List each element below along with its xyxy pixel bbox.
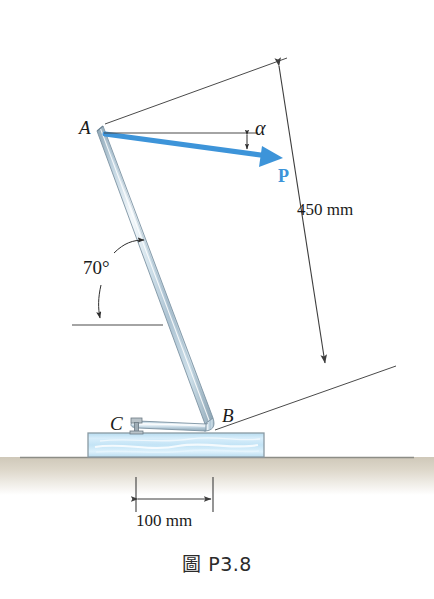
label-angle-alpha: α — [255, 118, 266, 138]
figure-container: A B C P α 70° 450 mm 100 mm 圖 P3.8 — [0, 0, 434, 599]
label-point-b: B — [222, 406, 234, 425]
label-point-c: C — [110, 414, 123, 433]
dimension-450 — [105, 58, 396, 430]
label-dimension-450: 450 mm — [297, 201, 353, 218]
ground — [0, 457, 434, 495]
figure-drawing — [0, 0, 434, 599]
base-block — [88, 433, 264, 457]
label-angle-70: 70° — [83, 258, 110, 277]
figure-caption: 圖 P3.8 — [0, 549, 434, 576]
label-dimension-100: 100 mm — [136, 512, 192, 529]
label-point-a: A — [79, 118, 91, 137]
label-force-p: P — [278, 167, 289, 185]
bent-rod — [97, 126, 214, 431]
